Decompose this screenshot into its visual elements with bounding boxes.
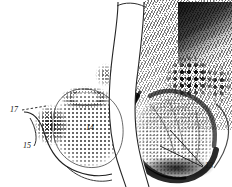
leader-line-13-a [170,130,203,166]
contour-and-leader-lines [0,0,232,187]
leader-line-13-b [160,146,203,167]
left-outer-contour [24,112,112,176]
figure-container: 17 15 14 13 [0,0,232,187]
leader-line-17 [22,106,46,110]
label-17: 17 [10,106,18,114]
label-13: 13 [205,162,213,170]
label-14: 14 [86,124,94,132]
label-15: 15 [23,142,31,150]
